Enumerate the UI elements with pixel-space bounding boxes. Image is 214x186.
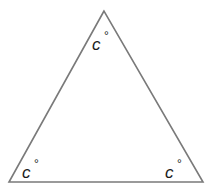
degree-symbol: °	[104, 29, 109, 43]
angle-variable: c	[165, 163, 174, 182]
angle-label-bottom-right: c °	[165, 157, 182, 182]
degree-symbol: °	[177, 157, 182, 171]
triangle-diagram: c ° c ° c °	[0, 0, 214, 186]
angle-variable: c	[92, 35, 101, 54]
angle-label-bottom-left: c °	[22, 157, 39, 182]
angle-label-top: c °	[92, 29, 109, 54]
degree-symbol: °	[34, 157, 39, 171]
angle-variable: c	[22, 163, 31, 182]
